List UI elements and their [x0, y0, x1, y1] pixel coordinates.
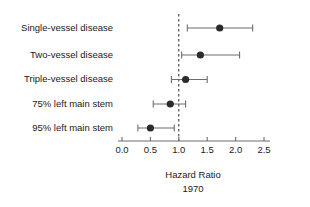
x-tick-label: 1.5	[201, 144, 214, 155]
x-tick-label: 2.0	[229, 144, 242, 155]
point-estimate-marker	[182, 76, 189, 83]
category-label: 75% left main stem	[32, 98, 113, 109]
point-estimate-marker	[147, 124, 154, 131]
category-label: 95% left main stem	[32, 122, 113, 133]
category-label: Two-vessel disease	[30, 49, 113, 60]
x-axis-title: Hazard Ratio	[165, 169, 220, 180]
x-tick-label: 1.0	[172, 144, 185, 155]
x-tick-label: 0.5	[144, 144, 157, 155]
x-tick-label: 0.0	[115, 144, 128, 155]
category-label: Triple-vessel disease	[24, 73, 113, 84]
x-axis-subtitle: 1970	[182, 183, 203, 194]
x-tick-label: 2.5	[257, 144, 270, 155]
category-label: Single-vessel disease	[21, 22, 113, 33]
point-estimate-marker	[216, 24, 223, 31]
point-estimate-marker	[167, 100, 174, 107]
forest-plot: Single-vessel diseaseTwo-vessel diseaseT…	[0, 0, 310, 207]
point-estimate-marker	[197, 51, 204, 58]
